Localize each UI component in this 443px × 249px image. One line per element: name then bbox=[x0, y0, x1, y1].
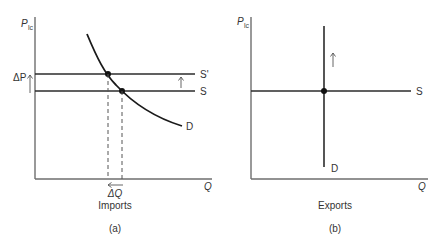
panel-a-delta-p-label: ΔP bbox=[13, 72, 27, 83]
panel-b-shift-up-arrow-icon bbox=[331, 53, 336, 67]
panel-b-y-axis-label: P bbox=[237, 16, 244, 27]
panel-a-y-axis-subscript: lc bbox=[28, 24, 34, 31]
panel-a-supply-label: S bbox=[200, 86, 207, 97]
panel-a-delta-p-arrow-icon bbox=[28, 75, 33, 93]
panel-a-delta-q-arrow-icon bbox=[108, 183, 123, 188]
panel-a-delta-q-label: ΔQ bbox=[107, 188, 123, 199]
panel-a-tag: (a) bbox=[109, 223, 121, 234]
panel-a-y-axis-label: P bbox=[21, 18, 28, 29]
panel-b-x-axis-label: Q bbox=[418, 181, 426, 192]
panel-a-demand-label: D bbox=[186, 121, 193, 132]
panel-b-caption: Exports bbox=[318, 200, 352, 211]
panel-b-y-axis-subscript: lc bbox=[244, 22, 250, 29]
trade-diagram: P lc Q S' S D ΔP ΔQ bbox=[0, 0, 443, 249]
panel-a-demand-curve bbox=[87, 34, 182, 126]
panel-b-demand-label: D bbox=[331, 163, 338, 174]
panel-b: P lc Q S D Exports (b) bbox=[237, 16, 428, 234]
panel-a-caption: Imports bbox=[98, 200, 131, 211]
panel-a-shift-up-arrow-icon bbox=[179, 77, 184, 88]
panel-b-supply-label: S bbox=[416, 86, 423, 97]
panel-a-x-axis-label: Q bbox=[204, 181, 212, 192]
panel-a-supply-shifted-label: S' bbox=[200, 69, 209, 80]
panel-a: P lc Q S' S D ΔP ΔQ bbox=[13, 17, 212, 234]
panel-b-equilibrium-point bbox=[321, 88, 327, 94]
panel-b-tag: (b) bbox=[329, 223, 341, 234]
